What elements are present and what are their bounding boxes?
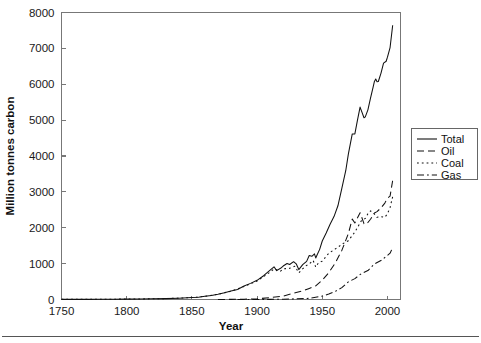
carbon-emissions-chart: 010002000300040005000600070008000 175018… — [0, 0, 481, 343]
x-tick-label: 1750 — [49, 305, 75, 317]
x-axis-title: Year — [219, 320, 244, 332]
y-tick-label: 1000 — [29, 258, 55, 270]
legend-label-total: Total — [441, 133, 464, 145]
figure-background — [0, 0, 481, 343]
y-tick-label: 8000 — [29, 7, 55, 19]
y-tick-label: 3000 — [29, 186, 55, 198]
y-tick-label: 6000 — [29, 78, 55, 90]
legend-label-coal: Coal — [441, 157, 464, 169]
y-tick-label: 2000 — [29, 222, 55, 234]
y-tick-label: 7000 — [29, 42, 55, 54]
y-tick-label: 5000 — [29, 114, 55, 126]
y-tick-label: 4000 — [29, 150, 55, 162]
legend-label-oil: Oil — [441, 145, 454, 157]
x-tick-label: 1800 — [114, 305, 140, 317]
x-tick-label: 2000 — [375, 305, 401, 317]
x-tick-label: 1900 — [244, 305, 270, 317]
legend-label-gas: Gas — [441, 169, 462, 181]
y-axis-title: Million tonnes carbon — [4, 97, 16, 216]
x-tick-label: 1950 — [309, 305, 335, 317]
x-tick-label: 1850 — [179, 305, 205, 317]
legend: TotalOilCoalGas — [412, 129, 478, 182]
